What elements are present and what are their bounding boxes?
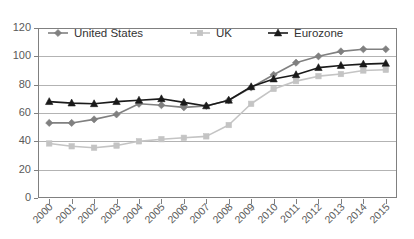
square-marker	[197, 30, 202, 35]
square-marker	[69, 144, 74, 149]
chart-canvas: 020406080100120 200020012002200320042005…	[0, 0, 414, 239]
square-marker	[271, 86, 276, 91]
square-marker	[114, 143, 119, 148]
square-marker	[338, 71, 343, 76]
y-tick-label: 80	[19, 78, 31, 90]
y-tick-label: 60	[19, 106, 31, 118]
square-marker	[136, 139, 141, 144]
square-marker	[293, 78, 298, 83]
square-marker	[226, 122, 231, 127]
square-marker	[361, 68, 366, 73]
y-tick-label: 40	[19, 134, 31, 146]
square-marker	[91, 145, 96, 150]
y-tick-label: 120	[13, 21, 31, 33]
square-marker	[204, 134, 209, 139]
line-chart: 020406080100120 200020012002200320042005…	[0, 0, 414, 239]
square-marker	[248, 101, 253, 106]
y-tick-label: 20	[19, 163, 31, 175]
legend-label: Eurozone	[294, 27, 343, 39]
square-marker	[316, 73, 321, 78]
y-tick-label: 0	[25, 191, 31, 203]
y-tick-label: 100	[13, 49, 31, 61]
square-marker	[383, 67, 388, 72]
legend-label: UK	[216, 27, 232, 39]
square-marker	[181, 135, 186, 140]
square-marker	[159, 137, 164, 142]
square-marker	[47, 141, 52, 146]
legend-label: United States	[74, 27, 143, 39]
